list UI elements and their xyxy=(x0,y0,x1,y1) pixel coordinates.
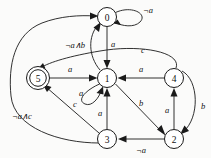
edge-label-0-to-1: a xyxy=(111,39,115,49)
edge-4-to-1-arrowhead xyxy=(118,75,127,82)
node-0-label: 0 xyxy=(105,13,110,23)
edge-label-1-to-0: ¬a∧b xyxy=(65,40,85,50)
edge-1-self-loop xyxy=(82,84,102,105)
node-5-label: 5 xyxy=(36,74,41,84)
node-2-label: 2 xyxy=(172,135,177,145)
edge-label-0-self: ¬a xyxy=(143,5,153,15)
edge-label-3-to-1: a xyxy=(98,108,102,118)
node-0[interactable]: 0 xyxy=(98,8,117,27)
edge-3-to-0 xyxy=(10,16,99,143)
edge-0-to-1-arrowhead xyxy=(104,60,111,69)
node-1-label: 1 xyxy=(105,74,110,84)
edge-1-to-2-arrowhead xyxy=(157,125,166,136)
edge-2-to-3-arrowhead xyxy=(118,136,127,143)
node-4-label: 4 xyxy=(172,74,177,84)
edge-label-4-to-1: a xyxy=(139,64,143,74)
automaton-diagram: 0 1 4 5 3 2 xyxy=(0,0,211,158)
automaton-canvas: 0 1 4 5 3 2 xyxy=(0,0,211,158)
edge-1-self-arrowhead xyxy=(97,87,104,95)
node-3-label: 3 xyxy=(105,135,110,145)
node-1[interactable]: 1 xyxy=(98,69,117,88)
node-5-accepting[interactable]: 5 xyxy=(27,67,50,90)
edge-label-1-self: a xyxy=(79,88,83,98)
edge-label-2-to-4: a xyxy=(165,105,169,115)
edge-label-2-to-3: ¬a xyxy=(136,145,146,155)
edge-3-to-1-arrowhead xyxy=(104,88,111,97)
edge-label-4-to-2: b xyxy=(201,101,205,111)
edge-label-3-to-5: c xyxy=(73,99,77,109)
edge-label-1-to-2: b xyxy=(139,98,143,108)
edge-2-to-4-arrowhead xyxy=(171,88,178,97)
edge-5-to-1-arrowhead xyxy=(89,75,98,82)
node-4[interactable]: 4 xyxy=(165,69,184,88)
edge-label-5-to-1: a xyxy=(68,64,72,74)
edge-4-to-2 xyxy=(182,71,195,132)
edge-label-3-to-0: ¬a∧c xyxy=(12,111,32,121)
node-2[interactable]: 2 xyxy=(165,130,184,149)
edge-1-to-0 xyxy=(91,25,100,70)
edge-label-4-to-5: c xyxy=(141,45,145,55)
node-3[interactable]: 3 xyxy=(98,130,117,149)
edge-3-to-5 xyxy=(46,87,99,133)
